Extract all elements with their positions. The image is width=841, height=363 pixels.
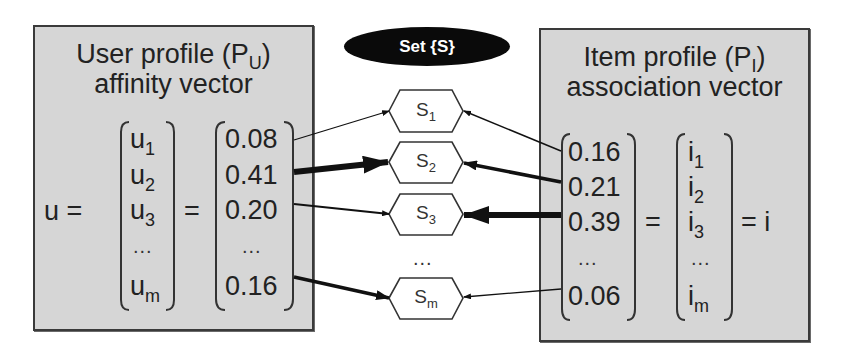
user-value-3: 0.20 <box>225 195 278 225</box>
user-symbol-3: u3 <box>130 195 155 225</box>
user-value-m: 0.16 <box>225 271 278 301</box>
item-value-3: 0.39 <box>568 207 621 237</box>
hex-label-sm: Sm <box>389 287 463 307</box>
item-value-ellipsis: ... <box>578 248 598 268</box>
user-value-ellipsis: ... <box>242 236 262 256</box>
user-value-2: 0.41 <box>225 160 278 190</box>
item-symbol-3: i3 <box>688 207 704 237</box>
user-symbol-1: u1 <box>130 124 155 154</box>
item-symbol-1: i1 <box>688 137 704 167</box>
user-symbol-ellipsis: ... <box>133 236 153 256</box>
item-equals: = <box>645 207 661 237</box>
item-symbol-m: im <box>688 281 709 311</box>
hex-label-s3: S3 <box>389 203 463 223</box>
item-profile-subtitle: association vector <box>541 72 808 102</box>
user-vector-lhs: u = <box>44 196 82 226</box>
user-profile-subtitle: affinity vector <box>35 69 312 99</box>
user-equals: = <box>184 196 200 226</box>
item-symbol-ellipsis: ... <box>691 248 711 268</box>
user-profile-title: User profile (PU) <box>35 39 312 69</box>
item-value-m: 0.06 <box>568 281 621 311</box>
set-label: Set {S} <box>344 27 510 66</box>
hex-label-s1: S1 <box>389 100 463 120</box>
set-ellipsis: ... <box>413 248 433 268</box>
user-symbol-m: um <box>130 271 160 301</box>
user-symbol-2: u2 <box>130 160 155 190</box>
item-symbol-2: i2 <box>688 172 704 202</box>
user-value-1: 0.08 <box>225 124 278 154</box>
item-vector-rhs: = i <box>741 207 770 237</box>
item-value-1: 0.16 <box>568 137 621 167</box>
item-profile-title: Item profile (PI) <box>541 42 808 72</box>
hex-label-s2: S2 <box>389 151 463 171</box>
item-value-2: 0.21 <box>568 172 621 202</box>
